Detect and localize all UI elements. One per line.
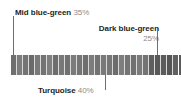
leader-line-mid-blue-green [13,16,14,56]
swatch-bar [59,55,64,75]
callout-mid-blue-green: Mid blue-green 35% [15,8,89,17]
callout-mid-blue-green-percent: 35% [71,8,89,17]
color-swatch-strip [11,55,177,75]
swatch-bar [83,55,88,75]
swatch-bar [107,55,112,75]
callout-turquoise: Turquoise 40% [38,86,94,95]
swatch-bar [23,55,28,75]
swatch-bar [149,55,154,75]
swatch-bar [155,55,160,75]
swatch-bar [173,55,178,75]
swatch-bar [125,55,130,75]
swatch-bar [65,55,70,75]
swatch-bar [137,55,142,75]
swatch-bar [143,55,148,75]
callout-dark-blue-green: Dark blue-green 25% [99,24,159,43]
leader-line-dark-blue-green [157,28,158,56]
swatch-bar [101,55,106,75]
swatch-bar [89,55,94,75]
swatch-bar [17,55,22,75]
swatch-bar [131,55,136,75]
swatch-bar [161,55,166,75]
color-proportion-figure: Mid blue-green 35% Dark blue-green 25% T… [0,0,181,103]
swatch-bar [71,55,76,75]
callout-turquoise-label: Turquoise [38,86,76,95]
callout-dark-blue-green-percent: 25% [99,34,159,43]
swatch-bar [47,55,52,75]
swatch-bar [41,55,46,75]
swatch-bar [167,55,172,75]
swatch-bar [35,55,40,75]
swatch-bar [113,55,118,75]
swatch-bar [53,55,58,75]
callout-turquoise-percent: 40% [76,86,94,95]
callout-mid-blue-green-label: Mid blue-green [15,8,71,17]
swatch-bar [11,55,16,75]
swatch-bar [119,55,124,75]
swatch-bar [95,55,100,75]
swatch-bar [77,55,82,75]
swatch-bar [179,55,181,75]
swatch-bar [29,55,34,75]
callout-dark-blue-green-label: Dark blue-green [99,24,159,33]
